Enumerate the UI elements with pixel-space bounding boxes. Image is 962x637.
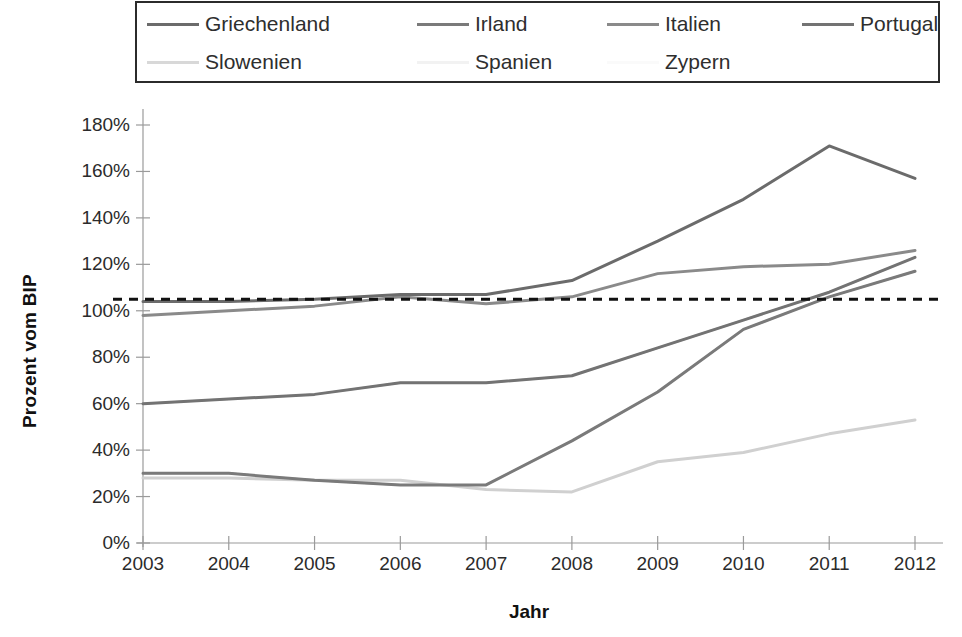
plot-area: Prozent vom BIP Jahr 0%20%40%60%80%100%1… xyxy=(0,85,962,637)
legend-line-swatch-icon xyxy=(607,23,659,26)
legend-item-spanien[interactable]: Spanien xyxy=(417,43,552,81)
legend-line-swatch-icon xyxy=(417,61,469,64)
legend-item-label: Portugal xyxy=(860,12,938,36)
legend-item-label: Zypern xyxy=(665,50,730,74)
legend-item-label: Griechenland xyxy=(205,12,330,36)
legend-item-portugal[interactable]: Portugal xyxy=(802,5,938,43)
series-line-zypern xyxy=(143,257,915,403)
chart-plot-svg xyxy=(0,85,962,637)
legend-item-label: Slowenien xyxy=(205,50,302,74)
legend-item-label: Irland xyxy=(475,12,528,36)
legend-item-griechenland[interactable]: Griechenland xyxy=(147,5,330,43)
legend-item-label: Italien xyxy=(665,12,721,36)
series-line-griechenland xyxy=(143,146,915,302)
series-line-italien xyxy=(143,250,915,315)
chart-legend: GriechenlandIrlandItalienPortugal Slowen… xyxy=(135,1,940,83)
legend-item-italien[interactable]: Italien xyxy=(607,5,721,43)
legend-line-swatch-icon xyxy=(147,61,199,64)
legend-row-2: SlowenienSpanienZypern xyxy=(137,43,938,81)
legend-item-irland[interactable]: Irland xyxy=(417,5,528,43)
legend-row-1: GriechenlandIrlandItalienPortugal xyxy=(137,5,938,43)
legend-item-zypern[interactable]: Zypern xyxy=(607,43,730,81)
series-line-portugal xyxy=(143,257,915,403)
chart-container: GriechenlandIrlandItalienPortugal Slowen… xyxy=(0,0,962,637)
legend-line-swatch-icon xyxy=(417,23,469,26)
legend-line-swatch-icon xyxy=(802,23,854,26)
legend-item-label: Spanien xyxy=(475,50,552,74)
legend-line-swatch-icon xyxy=(607,61,659,64)
legend-line-swatch-icon xyxy=(147,23,199,26)
legend-item-slowenien[interactable]: Slowenien xyxy=(147,43,302,81)
series-line-slowenien xyxy=(143,420,915,492)
